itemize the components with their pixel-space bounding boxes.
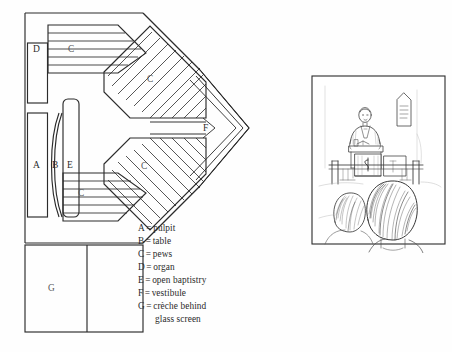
zone-label-c-upper: C — [147, 74, 153, 84]
legend-entry-e: E=open baptistry — [138, 274, 268, 287]
legend-eq-f: = — [143, 288, 151, 298]
legend-entry-g: G=crèche behind — [138, 300, 268, 313]
zone-label-a: A — [33, 160, 40, 170]
legend-value-g: crèche behind — [153, 301, 206, 311]
legend-value-f: vestibule — [152, 288, 186, 298]
legend-value-d: organ — [153, 262, 175, 272]
legend-entry-f: F=vestibule — [138, 287, 268, 300]
legend-eq-g: = — [145, 301, 153, 311]
legend-key-g: G — [138, 301, 145, 311]
side-lectern — [384, 156, 406, 176]
legend-entry-a: A=pulpit — [138, 222, 268, 235]
legend-eq-e: = — [144, 275, 152, 285]
legend-key-e: E — [138, 275, 144, 285]
zone-c-lower-diagonal-lines — [108, 138, 206, 224]
zone-label-f: F — [203, 123, 208, 133]
legend-value-b: table — [153, 236, 172, 246]
zone-c-lower-diagonal-outline — [104, 138, 206, 230]
illustration-svg — [305, 68, 450, 253]
wall-diag-top — [143, 13, 200, 70]
zone-g-creche — [25, 245, 143, 332]
zone-c-upper-diagonal-lines — [108, 32, 206, 118]
legend-entry-c: C=pews — [138, 248, 268, 261]
legend-eq-d: = — [145, 262, 153, 272]
zone-label-c-lower: C — [141, 161, 147, 171]
legend-key-d: D — [138, 262, 145, 272]
zone-label-g: G — [48, 283, 55, 293]
zone-label-e: E — [67, 160, 73, 170]
legend: A=pulpit B=table C=pews D=organ E=open b… — [138, 222, 268, 326]
legend-entry-b: B=table — [138, 235, 268, 248]
legend-eq-b: = — [144, 236, 152, 246]
zone-label-d: D — [33, 44, 40, 54]
illustration-panel — [305, 68, 450, 253]
legend-entry-d: D=organ — [138, 261, 268, 274]
legend-eq-a: = — [145, 223, 153, 233]
legend-value-a: pulpit — [153, 223, 175, 233]
legend-continuation: glass screen — [138, 313, 268, 326]
legend-eq-c: = — [144, 249, 152, 259]
zone-label-b: B — [52, 160, 58, 170]
legend-value-e: open baptistry — [152, 275, 206, 285]
zone-label-c-top: C — [68, 44, 74, 54]
zone-label-c-bottom: C — [78, 188, 84, 198]
page-root: A B E D C C C C F G A=pulpit B=table C=p… — [0, 0, 452, 352]
legend-key-a: A — [138, 223, 145, 233]
legend-value-c: pews — [153, 249, 173, 259]
zone-e-table — [63, 99, 79, 217]
zone-f-vestibule — [150, 70, 249, 186]
